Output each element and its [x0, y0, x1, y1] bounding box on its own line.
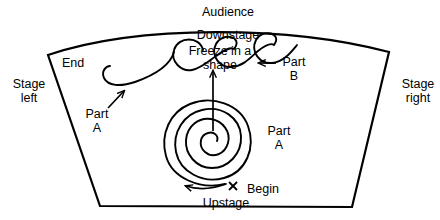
part-a-loops-arrow	[108, 91, 124, 108]
begin-marker-icon	[229, 182, 237, 190]
label-audience: Audience	[193, 5, 263, 19]
label-downstage: Downstage	[188, 28, 268, 42]
label-part-a-spiral: Part A	[262, 124, 296, 152]
label-end: End	[56, 56, 90, 70]
spiral-path	[164, 101, 250, 186]
label-stage-right: Stage right	[396, 77, 440, 105]
label-part-a-loops: Part A	[80, 107, 114, 135]
label-freeze-in-a-shape: Freeze in a shape	[182, 44, 258, 72]
label-part-b: Part B	[277, 55, 311, 83]
label-begin: Begin	[241, 182, 285, 196]
stage-pathway-diagram: Audience Downstage Upstage Stage left St…	[0, 0, 440, 220]
label-upstage: Upstage	[186, 196, 266, 210]
label-stage-left: Stage left	[2, 77, 56, 105]
end-hook-curve	[103, 52, 174, 85]
